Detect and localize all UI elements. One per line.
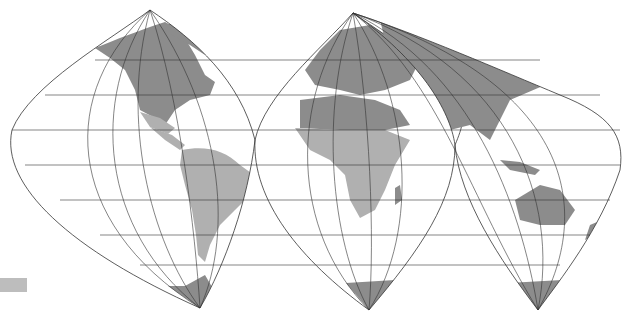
graticule (12, 10, 620, 310)
lobe-europe-africa (295, 25, 420, 310)
landmass-africa-north (300, 95, 410, 130)
landmass-africa (295, 128, 410, 218)
landmass-indonesia (500, 160, 540, 175)
landmass-australia (515, 185, 575, 225)
landmass-north-america (95, 22, 215, 125)
world-map (0, 0, 633, 319)
legend-swatch (0, 278, 27, 292)
landmass-madagascar (395, 185, 402, 205)
